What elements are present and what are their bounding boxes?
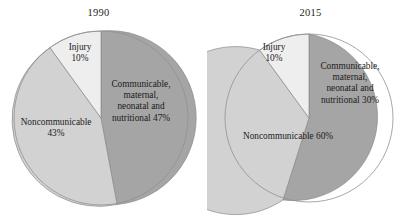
pie-1990-svg	[0, 0, 207, 218]
slice-communicable-1990	[101, 31, 196, 205]
pie-chart-figure: 1990 Communicable, maternal, neonatal an…	[0, 0, 414, 218]
pie-2015	[207, 0, 414, 218]
panel-1990: 1990 Communicable, maternal, neonatal an…	[0, 0, 207, 218]
panel-2015: 2015 Communicable, maternal, neonatal an…	[207, 0, 414, 218]
pie-2015-svg	[207, 0, 414, 218]
pie-1990	[0, 0, 207, 218]
